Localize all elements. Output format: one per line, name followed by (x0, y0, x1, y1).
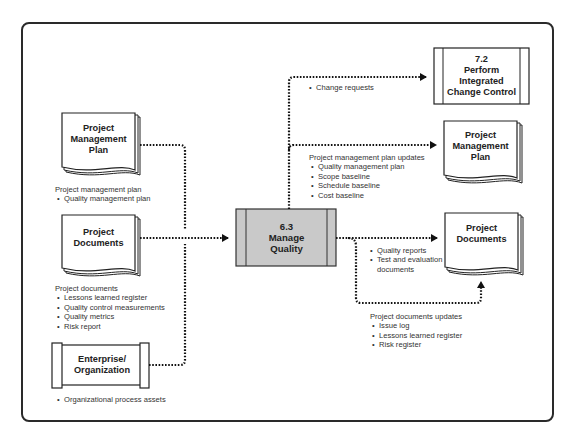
pmp-output-title: Project Management Plan (444, 126, 517, 166)
title-line: Project (70, 123, 126, 134)
caption-item: Lessons learned register (370, 331, 462, 340)
caption-item: Quality control measurements (55, 303, 165, 312)
caption-item: Scope baseline (309, 172, 425, 181)
caption-item: Schedule baseline (309, 181, 425, 190)
icc-output-caption: Change requests (307, 83, 374, 92)
caption-heading: Project management plan updates (309, 153, 425, 162)
eo-input-title: Enterprise/ Organization (62, 345, 142, 385)
pd-output-caption: Quality reports Test and evaluation docu… (368, 246, 442, 274)
pmp-input-title: Project Management Plan (62, 118, 135, 160)
process-name-line: Quality (269, 243, 305, 254)
title-line: Enterprise/ (74, 354, 130, 365)
icc-output-title: 7.2 Perform Integrated Change Control (443, 48, 520, 104)
title-line: Project (73, 227, 123, 238)
pmp-output-caption: Project management plan updates Quality … (309, 153, 425, 200)
caption-item: Risk report (55, 322, 165, 331)
title-line: Plan (70, 145, 126, 156)
title-line: Perform (447, 65, 516, 76)
process-number: 6.3 (269, 221, 305, 232)
title-line: Documents (73, 238, 123, 249)
caption-heading: Project documents updates (370, 312, 462, 321)
caption-item: Quality metrics (55, 312, 165, 321)
diagram-canvas: Project Management Plan Project Document… (0, 0, 575, 440)
title-line: Change Control (447, 87, 516, 98)
caption-item: Lessons learned register (55, 293, 165, 302)
title-line: Integrated (447, 76, 516, 87)
title-line: 7.2 (447, 54, 516, 65)
caption-item: Issue log (370, 321, 462, 330)
caption-item: Organizational process assets (55, 395, 166, 404)
caption-item: Risk register (370, 340, 462, 349)
pmp-input-caption: Project management plan Quality manageme… (55, 185, 151, 204)
title-line: Management (452, 141, 508, 152)
title-line: Plan (452, 152, 508, 163)
pd-input-title: Project Documents (62, 222, 135, 254)
pd-input-caption: Project documents Lessons learned regist… (55, 284, 165, 331)
title-line: Project (452, 130, 508, 141)
process-title: 6.3 Manage Quality (246, 209, 327, 266)
title-line: Organization (74, 365, 130, 376)
title-line: Documents (456, 234, 506, 245)
caption-item: Quality management plan (55, 194, 151, 203)
pd-output-title: Project Documents (445, 218, 518, 250)
title-line: Management (70, 134, 126, 145)
pd-output-updates-caption: Project documents updates Issue log Less… (370, 312, 462, 350)
caption-item: Change requests (307, 83, 374, 92)
title-line: Project (456, 223, 506, 234)
caption-item-continuation: documents (368, 265, 442, 274)
caption-heading: Project management plan (55, 185, 151, 194)
caption-item: Cost baseline (309, 191, 425, 200)
process-name-line: Manage (269, 232, 305, 243)
eo-input-caption: Organizational process assets (55, 395, 166, 404)
caption-item: Quality management plan (309, 162, 425, 171)
caption-heading: Project documents (55, 284, 165, 293)
caption-item: Test and evaluation (368, 255, 442, 264)
caption-item: Quality reports (368, 246, 442, 255)
